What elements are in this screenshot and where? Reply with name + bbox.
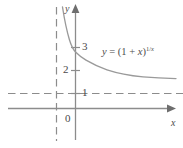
equation-exponent: 1/x bbox=[146, 45, 154, 52]
plot-canvas bbox=[0, 0, 183, 148]
origin-label: 0 bbox=[65, 113, 71, 124]
y-axis-label: y bbox=[65, 4, 69, 14]
y-axis-arrowhead bbox=[72, 4, 80, 13]
y-tick-label-1: 1 bbox=[82, 87, 88, 98]
graph-figure: y x 3 2 1 0 y = (1 + x)1/x bbox=[0, 0, 183, 148]
x-axis-label: x bbox=[171, 118, 175, 128]
y-tick-label-3: 3 bbox=[82, 41, 88, 52]
equation-annotation: y = (1 + x)1/x bbox=[102, 47, 154, 58]
y-tick-label-2: 2 bbox=[63, 64, 69, 75]
equation-exponent-denominator: x bbox=[151, 45, 154, 52]
x-axis-arrowhead bbox=[167, 105, 176, 113]
function-curve bbox=[63, 7, 177, 79]
